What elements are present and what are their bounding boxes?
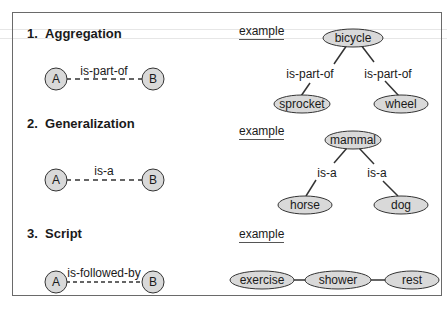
relation-label: is-part-of <box>80 64 128 78</box>
node-a-label: A <box>52 72 60 86</box>
node-b-label: B <box>149 173 157 187</box>
node-rest: rest <box>402 273 423 287</box>
relation-label: is-a <box>317 166 337 180</box>
relation-label: is-a <box>94 164 114 178</box>
relation-label: is-followed-by <box>67 266 140 280</box>
node-b-label: B <box>149 72 157 86</box>
node-exercise: exercise <box>240 273 285 287</box>
example-tree-mammal: mammal is-a is-a horse dog <box>278 131 428 214</box>
node-b-label: B <box>149 275 157 289</box>
node-a-label: A <box>52 173 60 187</box>
node-sprocket: sprocket <box>279 97 325 111</box>
example-chain-script: exercise shower rest <box>230 271 439 289</box>
node-wheel: wheel <box>384 97 416 111</box>
generic-script: is-followed-by A B <box>45 266 164 293</box>
node-horse: horse <box>290 198 320 212</box>
relation-label: is-part-of <box>364 67 412 81</box>
node-bicycle: bicycle <box>335 31 372 45</box>
node-dog: dog <box>391 198 411 212</box>
diagram-canvas: is-part-of A B bicycle is-part-of is-par… <box>0 0 447 316</box>
generic-generalization: is-a A B <box>45 164 164 191</box>
relation-label: is-a <box>367 166 387 180</box>
example-tree-bicycle: bicycle is-part-of is-part-of sprocket w… <box>274 29 428 113</box>
node-shower: shower <box>319 273 358 287</box>
relation-label: is-part-of <box>286 67 334 81</box>
node-a-label: A <box>52 275 60 289</box>
generic-aggregation: is-part-of A B <box>45 64 164 90</box>
node-mammal: mammal <box>330 133 376 147</box>
